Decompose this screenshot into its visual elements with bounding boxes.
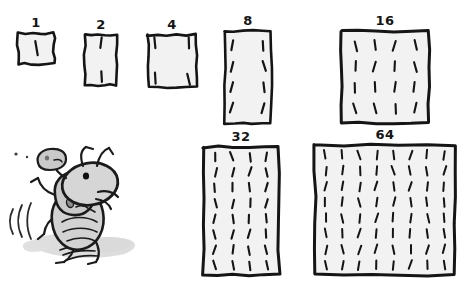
tally-mark xyxy=(393,151,394,160)
sketch-svg: 1248163264 xyxy=(0,0,474,290)
tally-mark xyxy=(393,261,394,270)
tally-mark xyxy=(233,215,234,223)
tally-box-64: 64 xyxy=(314,127,455,276)
tally-mark xyxy=(376,166,377,175)
tally-mark xyxy=(410,214,411,223)
tally-mark xyxy=(393,213,394,222)
tally-mark xyxy=(444,229,445,238)
tally-mark xyxy=(444,198,445,207)
box-number-label: 64 xyxy=(375,127,394,142)
tally-mark xyxy=(426,150,427,159)
tally-mark xyxy=(413,82,414,92)
ant-motion-lines xyxy=(10,203,31,239)
tally-mark xyxy=(249,262,250,270)
tally-box-32: 32 xyxy=(203,129,280,276)
tally-mark xyxy=(100,37,101,48)
tally-mark xyxy=(342,150,343,159)
tally-mark xyxy=(265,153,266,161)
tally-mark xyxy=(249,183,250,191)
tally-mark xyxy=(342,166,343,175)
tally-mark xyxy=(266,214,267,222)
box-number-label: 16 xyxy=(375,13,394,28)
box-outline xyxy=(203,146,280,276)
tally-mark xyxy=(155,73,156,84)
tally-mark xyxy=(427,229,428,238)
tally-mark xyxy=(233,245,234,253)
box-number-label: 1 xyxy=(31,15,41,30)
tally-box-4: 4 xyxy=(147,17,197,88)
box-number-label: 8 xyxy=(243,13,253,28)
tally-mark xyxy=(443,151,444,160)
box-number-label: 2 xyxy=(96,17,106,32)
ant-speed-specks xyxy=(14,152,28,158)
tally-mark xyxy=(359,214,360,223)
tally-box-1: 1 xyxy=(17,15,55,65)
box-outline xyxy=(314,144,455,276)
tally-mark xyxy=(263,41,264,51)
tally-mark xyxy=(374,40,375,50)
tally-mark xyxy=(342,197,343,206)
tally-mark xyxy=(427,182,428,191)
tally-mark xyxy=(359,183,360,192)
tally-mark xyxy=(443,182,444,191)
box-number-label: 4 xyxy=(167,17,177,32)
ant-held-object xyxy=(38,149,66,170)
tally-mark xyxy=(101,71,102,82)
tally-mark xyxy=(376,198,377,207)
tally-mark xyxy=(444,261,445,270)
ant-eye xyxy=(83,172,89,179)
tally-mark xyxy=(250,153,251,161)
tally-box-2: 2 xyxy=(84,17,117,86)
tally-mark xyxy=(444,213,445,222)
tally-mark xyxy=(154,37,155,48)
tally-box-16: 16 xyxy=(341,13,430,124)
tally-mark xyxy=(214,184,215,192)
illustration-canvas: 1248163264 1 2 4 8 16 32 64 xyxy=(0,0,474,290)
box-number-label: 32 xyxy=(231,129,250,144)
tally-mark xyxy=(410,198,411,207)
tally-mark xyxy=(376,229,377,238)
tally-mark xyxy=(394,82,395,92)
tally-mark xyxy=(426,197,427,206)
tally-mark xyxy=(263,82,264,92)
tally-mark xyxy=(326,167,327,176)
tally-mark xyxy=(377,151,378,160)
tally-mark xyxy=(393,182,394,191)
tally-box-8: 8 xyxy=(224,13,272,124)
tally-mark xyxy=(409,229,410,238)
running-ant xyxy=(10,147,135,264)
